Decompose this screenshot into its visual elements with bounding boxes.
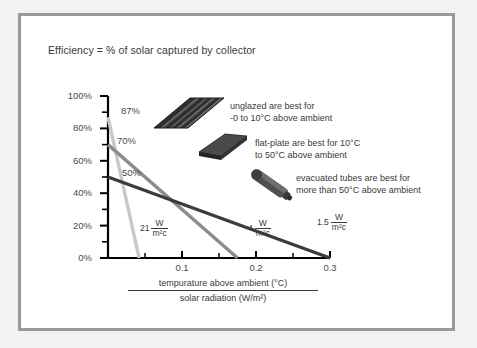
y-tick-label-40: 40% — [58, 187, 92, 198]
annotation-flat-plate: flat-plate are best for 10°C to 50°C abo… — [255, 138, 360, 161]
y-tick-label-80: 80% — [58, 122, 92, 133]
slope-value-unglazed: 21 — [140, 223, 151, 233]
chart-stage: Efficiency = % of solar captured by coll… — [0, 0, 477, 348]
slope-units-flat-plate: Wm²c — [255, 219, 271, 237]
slope-value-evacuated-tubes: 1.5 — [317, 217, 331, 227]
slope-value-flat-plate: 4 — [248, 223, 255, 233]
annotation-flat-plate-line1: flat-plate are best for 10°C — [255, 138, 360, 148]
x-axis-title: tempurature above ambient (°C) solar rad… — [128, 277, 318, 304]
y-tick-label-100: 100% — [58, 90, 92, 101]
evacuated-tube-collector-icon — [249, 167, 295, 204]
unglazed-collector-icon — [154, 98, 224, 128]
annotation-flat-plate-line2: to 50°C above ambient — [255, 150, 347, 160]
annotation-evacuated-tubes-line1: evacuated tubes are best for — [296, 173, 410, 183]
series-intercept-label-evacuated-tubes: 50% — [122, 167, 141, 178]
annotation-evacuated-tubes-line2: more than 50°C above ambient — [296, 185, 421, 195]
annotation-unglazed-line2: -0 to 10°C above ambient — [230, 113, 332, 123]
flat-plate-collector-icon — [199, 134, 247, 160]
y-tick-label-20: 20% — [58, 220, 92, 231]
x-axis-title-denominator: solar radiation (W/m²) — [128, 291, 318, 304]
x-tick-label-0.2: 0.2 — [241, 262, 271, 273]
slope-units-evacuated-tubes: Wm²c — [331, 213, 347, 231]
y-tick-label-0: 0% — [58, 252, 92, 263]
series-slope-label-evacuated-tubes: 1.5Wm²c — [317, 213, 347, 231]
series-intercept-label-unglazed: 87% — [121, 105, 140, 116]
series-slope-label-unglazed: 21Wm²c — [140, 219, 168, 237]
annotation-evacuated-tubes: evacuated tubes are best for more than 5… — [296, 173, 421, 196]
y-tick-label-60: 60% — [58, 155, 92, 166]
x-tick-label-0.1: 0.1 — [167, 262, 197, 273]
slope-units-unglazed: Wm²c — [151, 219, 167, 237]
series-intercept-label-flat-plate: 70% — [117, 135, 136, 146]
x-axis-title-numerator: tempurature above ambient (°C) — [128, 277, 318, 291]
x-tick-label-0.3: 0.3 — [315, 262, 345, 273]
series-slope-label-flat-plate: 4Wm²c — [248, 219, 271, 237]
annotation-unglazed: unglazed are best for -0 to 10°C above a… — [230, 101, 332, 124]
annotation-unglazed-line1: unglazed are best for — [230, 101, 315, 111]
